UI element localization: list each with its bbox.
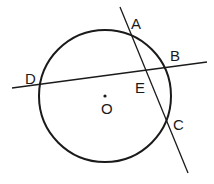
label-a: A: [131, 15, 141, 32]
label-b: B: [170, 47, 180, 64]
center-dot: [103, 94, 106, 97]
label-e: E: [135, 79, 145, 96]
label-o: O: [101, 100, 113, 117]
line-db: [12, 62, 207, 88]
label-c: C: [173, 116, 184, 133]
geometry-diagram: A B C D E O: [0, 0, 214, 184]
label-d: D: [25, 70, 36, 87]
